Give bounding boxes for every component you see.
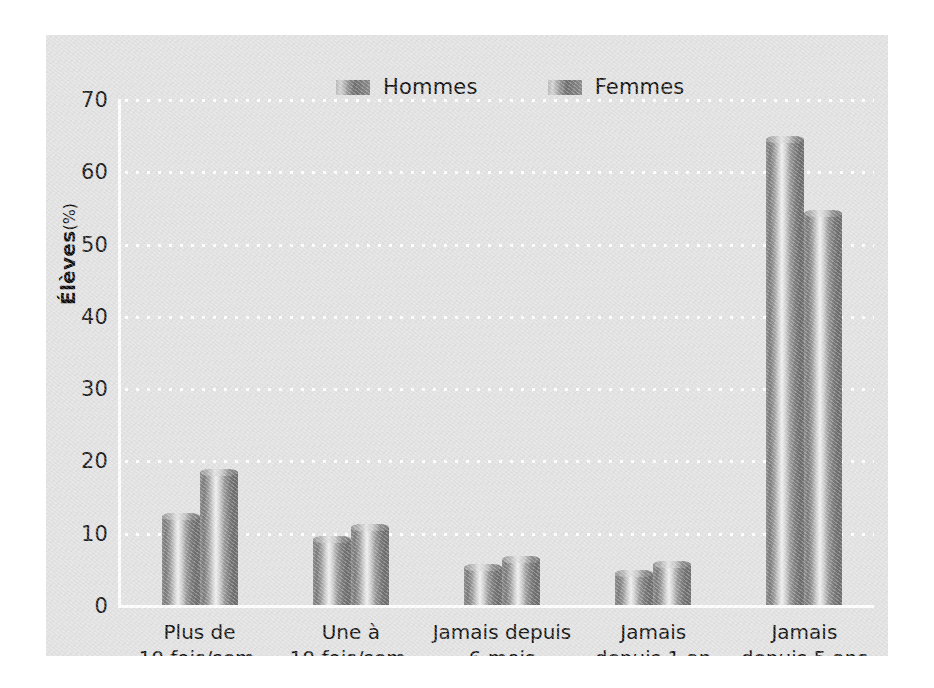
bar-femmes[interactable] — [502, 559, 540, 605]
bar-top-cap — [502, 556, 540, 563]
plot-area: 010203040506070 Plus de 10 fois/sem.Une … — [118, 99, 874, 608]
bar-top-cap — [804, 210, 842, 217]
bar-femmes[interactable] — [351, 527, 389, 605]
bar-hommes[interactable] — [766, 139, 804, 605]
bar-top-cap — [766, 136, 804, 143]
y-axis-title-main: Élèves — [56, 231, 80, 305]
gridline — [121, 244, 874, 247]
bar-femmes[interactable] — [804, 213, 842, 605]
bar-hommes[interactable] — [464, 567, 502, 605]
bar-top-cap — [162, 513, 200, 520]
bar-top-cap — [653, 561, 691, 568]
bar-group: Jamais depuis 6 mois — [464, 99, 540, 605]
bar-hommes[interactable] — [313, 539, 351, 606]
legend-item-femmes[interactable]: Femmes — [548, 75, 685, 99]
bar-group: Plus de 10 fois/sem. — [162, 99, 238, 605]
bar-femmes[interactable] — [653, 564, 691, 605]
bar-top-cap — [351, 524, 389, 531]
y-axis-tick-label: 60 — [81, 160, 108, 184]
gridline — [121, 171, 874, 174]
bar-femmes[interactable] — [200, 472, 238, 605]
bar-top-cap — [200, 469, 238, 476]
legend-item-hommes[interactable]: Hommes — [336, 75, 478, 99]
y-axis-line — [118, 99, 121, 608]
chart-figure: Élèves(%) Hommes Femmes 010203040506070 … — [0, 0, 934, 688]
y-axis-title: Élèves(%) — [56, 203, 80, 305]
gridline — [121, 460, 874, 463]
y-axis-tick-label: 40 — [81, 305, 108, 329]
y-axis-tick-label: 0 — [94, 594, 108, 618]
bar-group: Jamais depuis 1 an — [615, 99, 691, 605]
y-axis-tick-label: 70 — [81, 88, 108, 112]
bar-top-cap — [615, 570, 653, 577]
y-axis-title-unit: (%) — [60, 203, 79, 231]
gridline — [121, 316, 874, 319]
legend-label: Hommes — [383, 75, 478, 99]
bar-hommes[interactable] — [615, 573, 653, 605]
bar-top-cap — [464, 564, 502, 571]
y-axis-tick-label: 10 — [81, 522, 108, 546]
legend-label: Femmes — [595, 75, 685, 99]
x-axis-line — [118, 605, 874, 608]
bar-group: Une à 10 fois/sem. — [313, 99, 389, 605]
gridline — [121, 99, 874, 102]
legend-swatch-icon — [548, 80, 582, 95]
bar-group: Jamais depuis 5 ans — [766, 99, 842, 605]
y-axis-tick-label: 30 — [81, 377, 108, 401]
y-axis-tick-label: 50 — [81, 233, 108, 257]
bar-hommes[interactable] — [162, 516, 200, 605]
gridline — [121, 388, 874, 391]
bar-top-cap — [313, 536, 351, 543]
chart-legend: Hommes Femmes — [336, 75, 684, 99]
x-axis-tick-label: Jamais depuis 5 ans — [709, 619, 888, 656]
legend-swatch-icon — [336, 80, 370, 95]
y-axis-tick-label: 20 — [81, 449, 108, 473]
chart-panel: Élèves(%) Hommes Femmes 010203040506070 … — [46, 35, 888, 656]
